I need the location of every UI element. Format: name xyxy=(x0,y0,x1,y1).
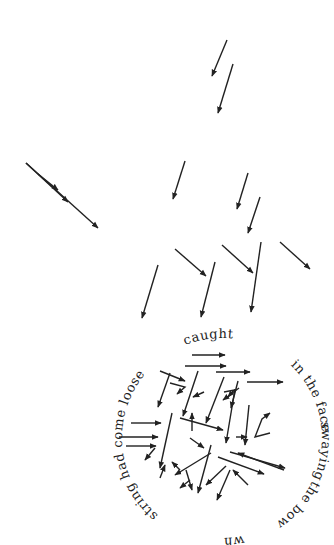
phrase-caught: caught xyxy=(181,326,234,348)
arrow-icon xyxy=(180,480,190,488)
arrow-icon xyxy=(160,371,185,381)
zigzag-arrow-icon xyxy=(186,470,192,490)
phrase-the-bow: the bow xyxy=(274,479,324,532)
arrow-icon xyxy=(251,242,261,312)
arrow-icon xyxy=(142,265,158,318)
arrow-icon xyxy=(26,163,68,202)
circular-poem-text: in the face swaying the bow whose string… xyxy=(0,0,334,545)
scattered-arrows-group xyxy=(26,40,310,318)
arrow-icon xyxy=(190,438,204,448)
arrow-icon xyxy=(198,445,211,493)
phrase-swaying: swaying xyxy=(310,421,334,484)
arrow-icon xyxy=(201,262,215,317)
arrow-icon xyxy=(245,405,249,445)
arrow-icon xyxy=(206,466,226,485)
phrase-in-the-face-path: in the face xyxy=(288,357,333,433)
arrow-icon xyxy=(233,470,248,485)
phrase-string-path: string had come loose xyxy=(110,366,160,524)
arrow-icon xyxy=(175,249,206,276)
zigzag-arrow-icon xyxy=(255,413,270,437)
arrow-icon xyxy=(183,371,198,416)
arrow-icon xyxy=(280,242,310,269)
phrase-string-had-come-loose: string had come loose xyxy=(110,366,160,524)
phrase-caught-path: caught xyxy=(181,326,234,348)
zigzag-arrow-icon xyxy=(170,383,185,394)
arrow-icon xyxy=(218,64,233,113)
phrase-the-bow-path: the bow xyxy=(274,479,324,532)
arrow-icon xyxy=(180,418,223,430)
arrow-icon xyxy=(237,173,248,209)
arrow-icon xyxy=(248,197,260,233)
arrow-icon xyxy=(222,245,253,273)
circle-zigzag-group xyxy=(170,383,270,490)
arrow-icon xyxy=(173,161,185,199)
arrow-icon xyxy=(212,40,227,76)
arrow-icon xyxy=(193,392,204,397)
arrow-icon xyxy=(172,462,180,470)
arrow-icon xyxy=(158,373,170,407)
poem-canvas: in the face swaying the bow whose string… xyxy=(0,0,334,545)
arrow-icon xyxy=(206,377,224,423)
phrase-swaying-path: swaying xyxy=(310,421,334,484)
arrow-icon xyxy=(160,413,172,468)
arrow-icon xyxy=(145,448,155,460)
phrase-in-the-face: in the face xyxy=(288,357,333,433)
arrow-icon xyxy=(217,470,230,500)
